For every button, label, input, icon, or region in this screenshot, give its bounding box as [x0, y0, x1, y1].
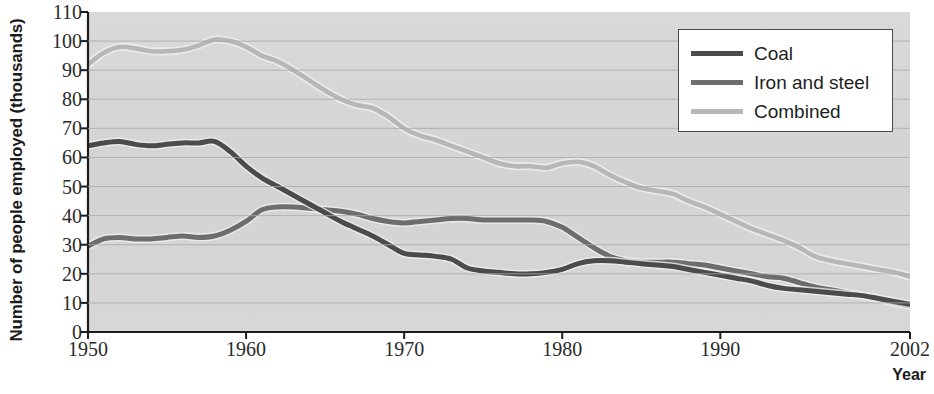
chart-legend: CoalIron and steelCombined	[678, 29, 893, 132]
y-tick-label: 20	[30, 262, 82, 285]
y-tick-label: 90	[30, 59, 82, 82]
y-tick-label: 110	[30, 1, 82, 24]
y-axis-title-text: Number of people employed (thousands)	[7, 18, 27, 341]
legend-swatch-icon	[691, 51, 743, 56]
legend-swatch-icon	[691, 109, 743, 114]
legend-item[interactable]: Combined	[691, 97, 892, 126]
y-tick-label: 80	[30, 88, 82, 111]
legend-label: Combined	[754, 101, 841, 123]
x-axis-title: Year	[892, 366, 926, 384]
employment-line-chart: Number of people employed (thousands) 01…	[0, 0, 934, 394]
y-tick-label: 30	[30, 233, 82, 256]
y-tick-label: 50	[30, 175, 82, 198]
y-tick-label: 100	[30, 30, 82, 53]
legend-swatch-icon	[691, 80, 743, 85]
legend-label: Iron and steel	[754, 72, 869, 94]
y-tick-label: 60	[30, 146, 82, 169]
x-tick-label: 1980	[542, 338, 582, 361]
x-tick-label: 1950	[68, 338, 108, 361]
legend-item[interactable]: Iron and steel	[691, 68, 892, 97]
y-tick-label: 70	[30, 117, 82, 140]
x-tick-label: 1990	[700, 338, 740, 361]
x-tick-label: 2002	[890, 338, 930, 361]
legend-label: Coal	[754, 43, 793, 65]
y-tick-label: 10	[30, 291, 82, 314]
x-tick-label: 1970	[384, 338, 424, 361]
legend-item[interactable]: Coal	[691, 39, 892, 68]
y-axis-tick-labels: 0102030405060708090100110	[26, 0, 82, 394]
y-tick-label: 40	[30, 204, 82, 227]
x-tick-label: 1960	[226, 338, 266, 361]
